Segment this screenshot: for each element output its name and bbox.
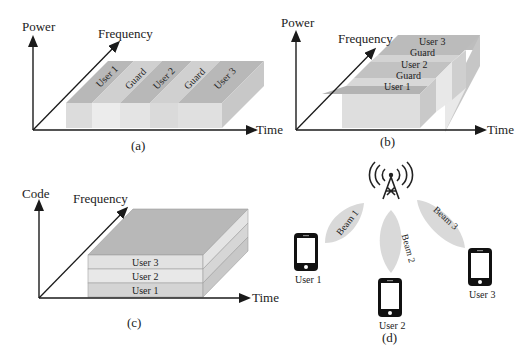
panel-caption: (b) xyxy=(380,134,395,149)
diag-axis-label: Frequency xyxy=(73,191,128,206)
x-axis-label: Time xyxy=(256,122,283,137)
beam-3: Beam 3 xyxy=(417,200,465,248)
block-label: User 1 xyxy=(384,81,410,92)
panel-a-fdma: Power Frequency Time User 1 Guard User 2… xyxy=(22,19,283,153)
diag-axis-label: Frequency xyxy=(98,26,153,41)
x-axis-label: Time xyxy=(487,122,514,137)
layer-label: User 1 xyxy=(132,285,158,296)
block-label: Guard xyxy=(396,70,421,81)
multiple-access-diagram: Power Frequency Time User 1 Guard User 2… xyxy=(0,0,530,355)
y-axis-label: Power xyxy=(22,19,56,34)
panel-c-cdma: Code Frequency Time User 3 User 2 User 1… xyxy=(22,186,279,330)
layer-label: User 3 xyxy=(132,257,158,268)
beam-1: Beam 1 xyxy=(325,203,364,243)
svg-text:Beam 2: Beam 2 xyxy=(400,233,417,264)
panel-caption: (d) xyxy=(382,330,397,345)
y-axis-label: Power xyxy=(281,15,315,30)
beam-2: Beam 2 xyxy=(380,210,417,273)
panel-d-sdma: Beam 1 Beam 2 Beam 3 User 1 User 2 xyxy=(294,162,495,345)
panel-c-stack xyxy=(88,209,248,297)
user-label: User 1 xyxy=(295,274,321,285)
smartphone-icon xyxy=(468,248,492,286)
layer-label: User 2 xyxy=(132,271,158,282)
panel-b-tdma: Power Frequency Time User 1 Guard User 2… xyxy=(281,15,514,149)
antenna-tower-icon xyxy=(369,162,412,199)
smartphone-icon xyxy=(294,233,318,271)
diag-axis-label: Frequency xyxy=(338,31,393,46)
panel-caption: (a) xyxy=(131,138,145,153)
block-label: User 3 xyxy=(419,36,445,47)
x-axis-label: Time xyxy=(252,290,279,305)
smartphone-icon xyxy=(378,278,402,317)
panel-caption: (c) xyxy=(127,315,141,330)
block-label: Guard xyxy=(410,47,435,58)
block-label: User 2 xyxy=(401,59,427,70)
user-label: User 3 xyxy=(469,289,495,300)
y-axis-label: Code xyxy=(22,186,50,201)
